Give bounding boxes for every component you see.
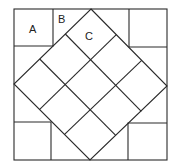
corner-square-bottom-right bbox=[128, 123, 167, 160]
label-b: B bbox=[58, 13, 65, 25]
label-c: C bbox=[85, 30, 93, 42]
label-a: A bbox=[29, 23, 37, 35]
corner-square-top-right bbox=[129, 9, 167, 47]
diagram-canvas: A B C bbox=[0, 0, 181, 166]
corner-square-bottom-left bbox=[14, 122, 51, 160]
